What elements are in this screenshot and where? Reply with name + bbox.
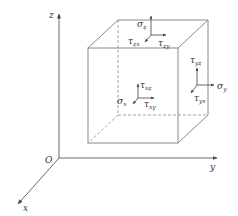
tau-yz-label: τyz xyxy=(190,55,202,67)
tau-xz-label: τxz xyxy=(140,80,152,91)
coordinate-axes: z y x O xyxy=(18,10,217,213)
sigma-x-label: σx xyxy=(117,96,127,107)
origin-label: O xyxy=(45,155,53,165)
stress-element-diagram: z y x O σz τzy τzx τxz τxy σx xyxy=(0,0,238,216)
x-axis-label: x xyxy=(23,203,28,213)
z-axis-label: z xyxy=(48,10,54,20)
tau-yx-arrow xyxy=(191,85,197,93)
tau-zx-label: τzx xyxy=(128,36,140,47)
tau-xy-label: τxy xyxy=(144,99,156,111)
x-axis xyxy=(18,158,59,204)
sigma-x-arrow xyxy=(133,98,138,104)
tau-yx-label: τyx xyxy=(194,93,206,105)
tau-zx-arrow xyxy=(145,35,151,42)
z-face-stresses: σz τzy τzx xyxy=(128,16,170,50)
x-face-stresses: τxz τxy σx xyxy=(117,80,156,111)
cube-front-face xyxy=(88,48,178,143)
y-axis-label: y xyxy=(209,162,216,172)
sigma-z-label: σz xyxy=(137,19,147,30)
cube-top-face xyxy=(88,20,208,48)
cube-right-face xyxy=(178,20,208,143)
hidden-edge-bottom-left xyxy=(88,115,118,143)
sigma-y-label: σy xyxy=(217,81,227,93)
y-face-stresses: τyz σy τyx xyxy=(190,55,227,105)
